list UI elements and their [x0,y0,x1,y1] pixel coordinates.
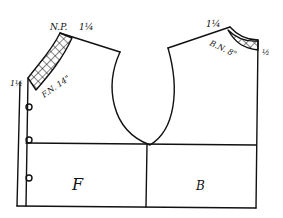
label-back-shoulder-measure: 1¼ [206,19,220,29]
chest-line [26,143,256,145]
bodice-pattern-diagram: N.P. 1¼ F.N. 14" 1½ 1¼ B.N. 8" ½ F B [0,0,283,218]
label-back-side-measure: ½ [262,48,270,57]
label-neck-point: N.P. [49,22,67,32]
hem-line [17,206,256,208]
label-front-panel: F [71,175,84,194]
front-extension-line [17,82,20,206]
label-left-side-measure: 1½ [10,79,23,88]
label-front-shoulder-measure: 1¼ [79,22,93,32]
armhole-curve [112,48,174,145]
side-seam-divider [146,145,147,207]
label-back-panel: B [195,179,205,193]
label-back-neck: B.N. 8" [207,38,238,59]
back-side-seam [256,40,258,208]
